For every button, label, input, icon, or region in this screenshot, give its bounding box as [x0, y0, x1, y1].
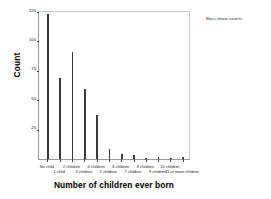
- bar: [59, 78, 61, 159]
- y-tick-mark: [37, 130, 40, 131]
- x-category-label: 7 children: [124, 170, 141, 174]
- y-tick-mark: [37, 41, 40, 42]
- y-tick-mark: [37, 12, 40, 13]
- y-tick-label: 100: [29, 38, 36, 42]
- y-tick-label: 50: [31, 97, 36, 101]
- x-category-label: 9 children: [149, 170, 166, 174]
- x-category-label: 3 children: [75, 170, 92, 174]
- bar: [96, 115, 98, 159]
- x-axis-title: Number of children ever born: [38, 180, 190, 190]
- bar: [72, 52, 74, 159]
- chart-footnote: Bars show counts: [206, 16, 242, 22]
- bar: [109, 149, 111, 159]
- y-tick-label: 75: [31, 67, 36, 71]
- x-category-label: No child: [40, 165, 54, 169]
- x-category-label: 1 child: [53, 170, 64, 174]
- y-axis-title: Count: [12, 35, 22, 95]
- y-tick-mark: [37, 71, 40, 72]
- y-tick-label: 25: [31, 126, 36, 130]
- bar: [47, 14, 49, 159]
- bar-chart-figure: Bars show counts Count 255075100125 No c…: [0, 0, 271, 199]
- plot-area: 255075100125: [38, 11, 190, 160]
- x-category-label: 11 or more children: [165, 170, 199, 174]
- x-axis-category-labels: No child1 child2 children3 children4 chi…: [38, 161, 190, 179]
- y-tick-mark: [37, 100, 40, 101]
- y-tick-label: 125: [29, 9, 36, 13]
- bar: [84, 89, 86, 159]
- x-category-label: 5 children: [100, 170, 117, 174]
